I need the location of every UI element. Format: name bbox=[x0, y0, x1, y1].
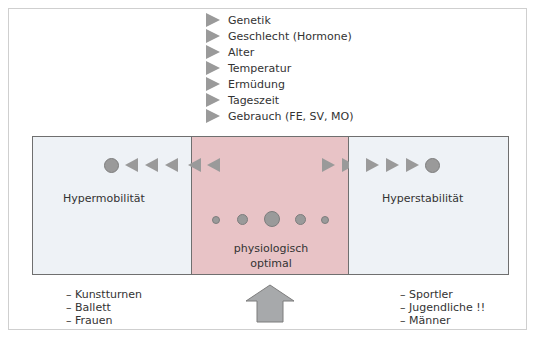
zone-physiological-optimal: physiologisch optimal bbox=[191, 137, 349, 274]
zone-hyperstability: Hyperstabilität bbox=[349, 137, 508, 274]
triangle-right-icon bbox=[206, 109, 220, 123]
right-group-item: – Männer bbox=[400, 314, 485, 327]
triangle-left-icon bbox=[207, 158, 220, 172]
triangle-right-icon bbox=[206, 93, 220, 107]
right-group-item: – Jugendliche !! bbox=[400, 301, 485, 314]
triangle-left-icon bbox=[188, 158, 201, 172]
circle-medium-icon bbox=[295, 214, 306, 225]
factor-item-geschlecht: Geschlecht (Hormone) bbox=[206, 28, 352, 44]
triangle-right-icon bbox=[206, 61, 220, 75]
triangle-right-icon bbox=[206, 77, 220, 91]
triangle-left-icon bbox=[125, 158, 138, 172]
optimal-label-line1: physiologisch bbox=[192, 241, 350, 256]
circle-end-icon bbox=[104, 158, 119, 173]
left-group-item: – Ballett bbox=[66, 301, 142, 314]
hypermobility-label: Hypermobilität bbox=[63, 192, 145, 205]
factor-label: Gebrauch (FE, SV, MO) bbox=[228, 110, 354, 123]
arrow-up-icon bbox=[245, 284, 295, 323]
circle-large-icon bbox=[264, 211, 280, 227]
circle-medium-icon bbox=[237, 214, 248, 225]
factor-label: Temperatur bbox=[228, 62, 291, 75]
left-group-item: – Frauen bbox=[66, 314, 142, 327]
left-group-list: – Kunstturnen – Ballett – Frauen bbox=[66, 288, 142, 327]
triangle-right-icon bbox=[206, 45, 220, 59]
factor-label: Geschlecht (Hormone) bbox=[228, 30, 352, 43]
hyperstability-label: Hyperstabilität bbox=[382, 192, 463, 205]
factor-item-genetik: Genetik bbox=[206, 12, 271, 28]
triangle-right-icon bbox=[206, 29, 220, 43]
zone-hypermobility: Hypermobilität bbox=[33, 137, 191, 274]
factor-label: Ermüdung bbox=[228, 78, 285, 91]
circle-end-icon bbox=[425, 158, 440, 173]
triangle-left-icon bbox=[165, 158, 178, 172]
factor-label: Genetik bbox=[228, 14, 271, 27]
left-group-item: – Kunstturnen bbox=[66, 288, 142, 301]
circle-small-icon bbox=[321, 216, 329, 224]
right-group-list: – Sportler – Jugendliche !! – Männer bbox=[400, 288, 485, 327]
spectrum-box: Hypermobilität physiologisch optimal Hyp… bbox=[32, 136, 509, 275]
optimal-label-line2: optimal bbox=[192, 256, 350, 271]
triangle-right-icon bbox=[366, 158, 379, 172]
triangle-left-icon bbox=[145, 158, 158, 172]
factor-item-alter: Alter bbox=[206, 44, 254, 60]
triangle-right-icon bbox=[206, 13, 220, 27]
triangle-right-icon bbox=[322, 158, 335, 172]
factor-item-ermuedung: Ermüdung bbox=[206, 76, 285, 92]
factor-item-temperatur: Temperatur bbox=[206, 60, 291, 76]
triangle-right-icon bbox=[406, 158, 419, 172]
right-group-item: – Sportler bbox=[400, 288, 485, 301]
factor-item-gebrauch: Gebrauch (FE, SV, MO) bbox=[206, 108, 354, 124]
factor-item-tageszeit: Tageszeit bbox=[206, 92, 279, 108]
circle-small-icon bbox=[212, 216, 220, 224]
triangle-right-icon bbox=[386, 158, 399, 172]
factor-label: Tageszeit bbox=[228, 94, 279, 107]
factor-label: Alter bbox=[228, 46, 254, 59]
